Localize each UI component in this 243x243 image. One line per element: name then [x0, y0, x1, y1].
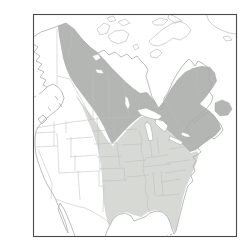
victoria-island [108, 30, 129, 44]
parry-islands [107, 16, 130, 26]
banks-island [97, 23, 110, 35]
king-william-island [133, 44, 139, 50]
shaded-ranges [58, 23, 232, 233]
coastline-bering-alaska [33, 44, 47, 94]
baffin-bay-island [223, 36, 232, 41]
vancouver-island [38, 115, 47, 124]
devon-island [152, 18, 168, 25]
greenland-coast [206, 14, 236, 34]
coastline-pacific [35, 84, 75, 236]
range-map [0, 0, 243, 243]
southampton-island [150, 49, 162, 58]
ellesmere-island [168, 14, 182, 23]
florida-keys-dots [167, 234, 172, 236]
coastline-panhandle-island-dashes [48, 96, 62, 111]
north-america-range-map-svg [0, 0, 243, 243]
